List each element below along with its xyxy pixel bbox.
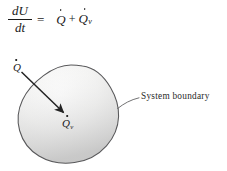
q-dot-v-label-base: Q <box>62 117 70 129</box>
q-dot-v-label-subscript: v <box>70 123 73 130</box>
overdot-icon <box>66 115 68 117</box>
system-blob-icon <box>18 65 119 163</box>
overdot-icon <box>16 59 18 61</box>
q-dot-symbol: Q <box>13 62 21 73</box>
q-dot-v-symbol: Qv <box>62 118 73 130</box>
figure-canvas <box>0 0 227 171</box>
leader-line-icon <box>118 98 139 109</box>
system-boundary-label: System boundary <box>141 91 210 101</box>
thermodynamics-figure: dU dt = Q + Qv <box>0 0 227 171</box>
q-dot-label: Q <box>13 62 21 73</box>
q-dot-v-label: Qv <box>62 118 73 130</box>
q-dot-label-base: Q <box>13 61 21 73</box>
